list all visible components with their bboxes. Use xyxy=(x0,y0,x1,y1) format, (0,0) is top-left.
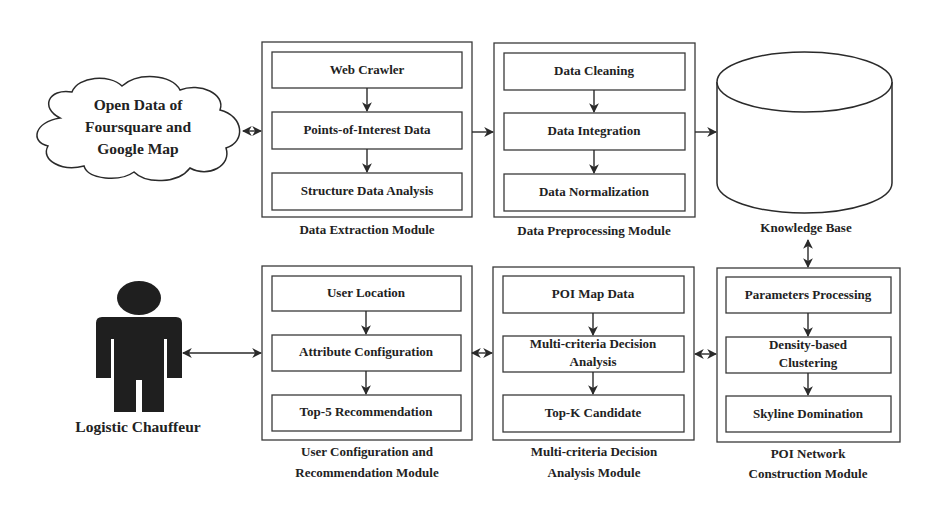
step-label: Skyline Domination xyxy=(753,406,864,421)
data-preprocessing-module: Data Cleaning Data Integration Data Norm… xyxy=(494,43,695,238)
step-label: Top-5 Recommendation xyxy=(300,404,434,419)
module-label-line-1: POI Network xyxy=(771,446,847,461)
logistic-chauffeur-actor: Logistic Chauffeur xyxy=(75,281,200,435)
module-label: Data Extraction Module xyxy=(299,222,434,237)
database-cylinder-icon xyxy=(717,52,892,213)
module-label: Data Preprocessing Module xyxy=(517,223,671,238)
step-label: Points-of-Interest Data xyxy=(303,122,431,137)
knowledge-base-label: Knowledge Base xyxy=(760,220,852,235)
step-label: Structure Data Analysis xyxy=(301,183,434,198)
step-label: Data Cleaning xyxy=(554,63,634,78)
module-label-line-1: User Configuration and xyxy=(301,444,434,459)
step-label: Web Crawler xyxy=(330,62,405,77)
module-label-line-2: Construction Module xyxy=(749,466,868,481)
step-label-line-2: Analysis xyxy=(570,354,617,369)
cloud-label-line-3: Google Map xyxy=(97,140,178,157)
step-label-line-1: Multi-criteria Decision xyxy=(530,336,657,351)
open-data-source: Open Data of Foursquare and Google Map xyxy=(37,77,240,181)
cloud-label-line-1: Open Data of xyxy=(94,96,184,113)
actor-label: Logistic Chauffeur xyxy=(75,418,200,435)
module-label-line-2: Analysis Module xyxy=(548,465,641,480)
cloud-label-line-2: Foursquare and xyxy=(85,118,191,135)
knowledge-base: Knowledge Base xyxy=(717,52,892,235)
system-architecture-diagram: Open Data of Foursquare and Google Map W… xyxy=(0,0,936,511)
step-label: Top-K Candidate xyxy=(545,405,642,420)
step-label: Data Normalization xyxy=(539,184,650,199)
step-label-line-2: Clustering xyxy=(779,355,838,370)
step-label: Attribute Configuration xyxy=(299,344,434,359)
person-icon xyxy=(96,281,182,412)
mcda-module: POI Map Data Multi-criteria Decision Ana… xyxy=(493,267,694,480)
module-label-line-2: Recommendation Module xyxy=(295,465,439,480)
step-label: Parameters Processing xyxy=(745,287,872,302)
step-label-line-1: Density-based xyxy=(769,337,848,352)
step-label: User Location xyxy=(327,285,406,300)
poi-network-module: Parameters Processing Density-based Clus… xyxy=(717,268,900,481)
module-label-line-1: Multi-criteria Decision xyxy=(531,444,658,459)
user-configuration-module: User Location Attribute Configuration To… xyxy=(262,266,472,480)
step-label: POI Map Data xyxy=(552,286,635,301)
data-extraction-module: Web Crawler Points-of-Interest Data Stru… xyxy=(262,42,472,237)
step-label: Data Integration xyxy=(548,123,642,138)
